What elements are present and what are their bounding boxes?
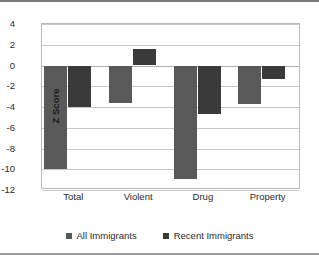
y-axis-title: Z Score	[50, 89, 61, 124]
y-tick-label: -6	[0, 121, 15, 132]
legend-swatch-icon	[66, 233, 72, 239]
y-tick-label: 4	[0, 18, 15, 29]
y-tick-label: -8	[0, 142, 15, 153]
y-tick-label: -2	[0, 80, 15, 91]
bar	[174, 66, 197, 179]
y-tick-label: 2	[0, 38, 15, 49]
bar	[238, 66, 261, 104]
bar	[68, 66, 91, 108]
legend-label: All Immigrants	[77, 230, 137, 241]
legend-item[interactable]: All Immigrants	[66, 230, 137, 241]
bar	[109, 66, 132, 103]
chart-figure: Z Score 420-2-4-6-8-10-12 TotalViolentDr…	[0, 0, 319, 255]
x-axis-tick-labels: TotalViolentDrugProperty	[41, 191, 300, 211]
bar-group	[172, 24, 237, 188]
legend-label: Recent Immigrants	[174, 230, 254, 241]
y-tick-label: -12	[0, 184, 15, 195]
bar-group	[107, 24, 172, 188]
chart-legend: All ImmigrantsRecent Immigrants	[0, 230, 319, 241]
x-tick-label: Violent	[124, 191, 153, 202]
plot-area: Z Score	[41, 23, 300, 189]
bar	[133, 49, 156, 65]
x-tick-label: Property	[250, 191, 286, 202]
bar-groups	[42, 24, 299, 188]
x-tick-label: Drug	[193, 191, 214, 202]
bar	[198, 66, 221, 115]
legend-swatch-icon	[163, 233, 169, 239]
x-tick-label: Total	[63, 191, 83, 202]
bar	[262, 66, 285, 79]
legend-item[interactable]: Recent Immigrants	[163, 230, 254, 241]
y-tick-label: 0	[0, 59, 15, 70]
y-tick-label: -10	[0, 163, 15, 174]
y-tick-label: -4	[0, 101, 15, 112]
bar-group	[236, 24, 301, 188]
